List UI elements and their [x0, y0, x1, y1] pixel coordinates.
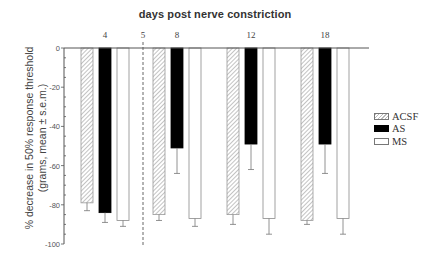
bars-group [81, 48, 349, 234]
legend-item-as: AS [374, 123, 418, 136]
legend-swatch-black [374, 125, 389, 132]
bar-ms-day-18 [337, 48, 349, 219]
y-tick-label: -40 [49, 122, 60, 131]
bar-as-day-4 [99, 48, 111, 213]
y-tick-label: -60 [49, 162, 60, 171]
bar-acsf-day-8 [153, 48, 165, 215]
bar-acsf-day-18 [301, 48, 313, 220]
bar-acsf-day-4 [81, 48, 93, 203]
bar-ms-day-8 [189, 48, 201, 219]
day-5-marker-label: 5 [141, 30, 146, 40]
bar-as-day-18 [319, 48, 331, 144]
plot-area: 0-20-40-60-80-1004812185 [0, 0, 434, 262]
y-tick-label: -20 [49, 83, 60, 92]
x-category-label: 8 [175, 30, 180, 40]
y-tick-label: -80 [49, 201, 60, 210]
legend: ACSF AS MS [374, 110, 418, 148]
legend-item-ms: MS [374, 135, 418, 148]
bar-acsf-day-12 [227, 48, 239, 215]
legend-swatch-white [374, 138, 389, 145]
x-category-label: 18 [321, 30, 331, 40]
x-category-label: 4 [103, 30, 108, 40]
legend-label: ACSF [392, 111, 418, 122]
legend-label: AS [392, 123, 405, 134]
bar-ms-day-4 [117, 48, 129, 220]
legend-label: MS [392, 136, 407, 147]
bar-ms-day-12 [263, 48, 275, 219]
y-tick-label: -100 [45, 240, 60, 249]
legend-swatch-hatched [374, 113, 389, 120]
bar-as-day-12 [245, 48, 257, 144]
y-tick-label: 0 [56, 44, 60, 53]
x-category-label: 12 [247, 30, 256, 40]
bar-as-day-8 [171, 48, 183, 148]
legend-item-acsf: ACSF [374, 110, 418, 123]
